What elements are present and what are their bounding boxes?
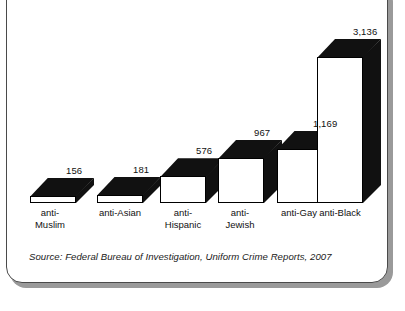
bar-front-face [317, 57, 363, 203]
bar-value-label: 576 [196, 145, 212, 156]
bar-3 [218, 140, 282, 203]
bar-category-label: anti-Asian [84, 207, 156, 219]
bar-1 [97, 177, 161, 203]
bar-category-label: anti-Black [304, 207, 376, 219]
bar-value-label: 3,136 [353, 26, 377, 37]
bar-front-face [218, 158, 264, 203]
bar-front-face [160, 176, 206, 203]
bar-front-face [30, 196, 76, 203]
bar-value-label: 967 [254, 127, 270, 138]
bar-category-label: anti- Muslim [14, 207, 86, 230]
bar-value-label: 181 [133, 164, 149, 175]
bar-side-face [363, 39, 381, 203]
bar-2 [160, 158, 224, 203]
bar-value-label: 1,169 [313, 118, 337, 129]
bar-front-face [97, 195, 143, 203]
bar-0 [30, 178, 94, 203]
bar-chart: 156anti- Muslim181anti-Asian576anti- His… [0, 0, 405, 311]
bar-value-label: 156 [66, 165, 82, 176]
source-caption: Source: Federal Bureau of Investigation,… [29, 251, 332, 262]
